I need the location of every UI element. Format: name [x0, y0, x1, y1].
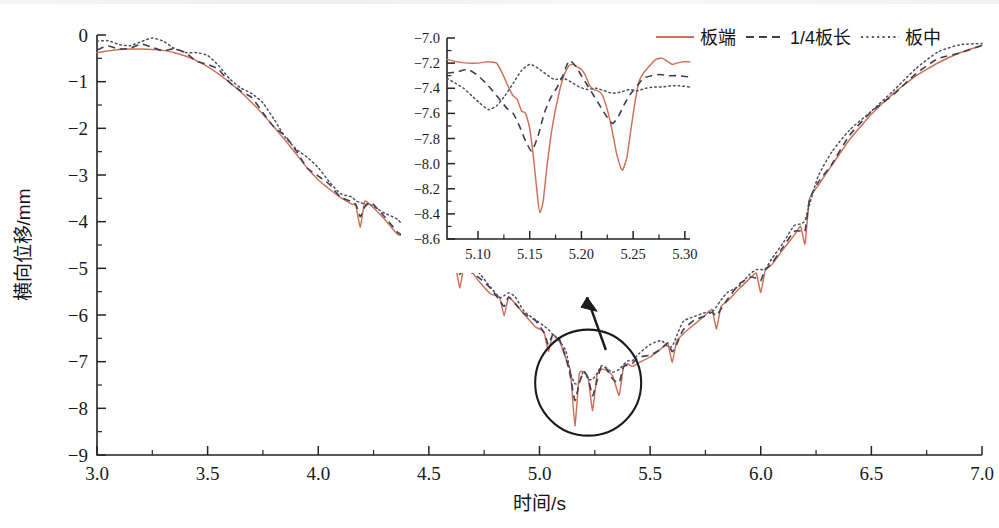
inset-y-tick-label: −8.4	[414, 206, 441, 222]
inset-x-tick-label: 5.20	[569, 246, 594, 262]
inset-y-tick-label: −8.2	[414, 181, 440, 197]
inset-y-tick-label: −7.4	[414, 80, 441, 96]
inset-y-tick-label: −7.2	[414, 55, 440, 71]
x-tick-label: 6.5	[860, 463, 884, 484]
legend-label-2: 1/4板长	[790, 28, 851, 48]
y-tick-label: 0	[79, 25, 89, 46]
inset-y-tick-label: −8.0	[414, 156, 440, 172]
inset-x-tick-label: 5.30	[672, 246, 697, 262]
inset-y-tick-label: −7.8	[414, 131, 440, 147]
y-tick-label: −6	[68, 305, 88, 326]
x-tick-label: 3.0	[85, 463, 109, 484]
inset-x-tick-label: 5.25	[620, 246, 645, 262]
inset-y-tick-label: −7.0	[414, 30, 440, 46]
y-tick-label: −5	[68, 258, 88, 279]
legend-label-3: 板中	[905, 28, 941, 48]
y-tick-label: −2	[68, 118, 88, 139]
x-axis-title: 时间/s	[513, 493, 566, 514]
x-tick-label: 7.0	[970, 463, 994, 484]
y-tick-label: −7	[68, 351, 88, 372]
chart-svg: 0−1−2−3−4−5−6−7−8−93.03.54.04.55.05.56.0…	[0, 0, 999, 528]
inset-axes: −7.0−7.2−7.4−7.6−7.8−8.0−8.2−8.4−8.65.10…	[401, 24, 708, 273]
inset-x-tick-label: 5.10	[465, 246, 490, 262]
x-tick-label: 4.5	[417, 463, 441, 484]
y-axis-title: 横向位移/mm	[13, 189, 34, 302]
y-tick-label: −4	[68, 211, 89, 232]
inset-y-tick-label: −8.6	[414, 231, 440, 247]
x-tick-label: 5.0	[528, 463, 552, 484]
x-tick-label: 4.0	[306, 463, 330, 484]
legend-label-1: 板端	[700, 28, 736, 48]
x-tick-label: 5.5	[638, 463, 662, 484]
y-tick-label: −3	[68, 165, 88, 186]
y-tick-label: −1	[68, 71, 88, 92]
x-tick-label: 6.0	[749, 463, 773, 484]
x-tick-label: 3.5	[196, 463, 220, 484]
inset-y-tick-label: −7.6	[414, 105, 440, 121]
y-tick-label: −8	[68, 398, 88, 419]
chart-figure: 0−1−2−3−4−5−6−7−8−93.03.54.04.55.05.56.0…	[0, 0, 999, 528]
inset-x-tick-label: 5.15	[517, 246, 542, 262]
callout-arrow-head	[581, 297, 597, 311]
